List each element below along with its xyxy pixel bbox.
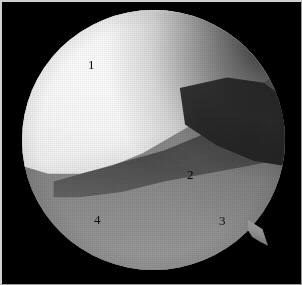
figure-frame: 1 2 3 4 xyxy=(0,0,302,285)
anatomy-label-2: 2 xyxy=(187,168,194,181)
image-grain-texture xyxy=(22,10,285,270)
anatomy-label-4: 4 xyxy=(94,213,101,226)
anatomy-label-1: 1 xyxy=(88,58,95,71)
anatomy-label-3: 3 xyxy=(219,214,226,227)
arthroscopic-field-of-view xyxy=(22,10,285,270)
